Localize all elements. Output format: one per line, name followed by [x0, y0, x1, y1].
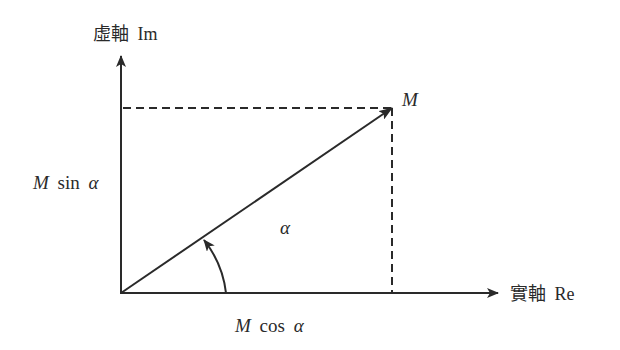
- real-axis-label-cjk: 實軸: [510, 283, 546, 304]
- real-axis-label-latin: Re: [555, 284, 575, 304]
- imaginary-axis-label-cjk: 虛軸: [93, 23, 129, 44]
- angle-alpha-label: α: [280, 217, 291, 238]
- m-cos-alpha-label: M cos α: [234, 315, 305, 336]
- imaginary-axis-label: 虛軸 Im: [93, 23, 158, 44]
- m-sin-angle: α: [89, 172, 100, 193]
- m-sin-func: sin: [58, 172, 81, 193]
- m-cos-angle: α: [294, 315, 305, 336]
- m-sin-symbol: M: [32, 172, 50, 193]
- angle-arc-arrow: [204, 240, 226, 293]
- m-cos-symbol: M: [234, 315, 252, 336]
- vector-m-label: M: [401, 89, 419, 110]
- phasor-diagram: 虛軸 Im 實軸 Re M α M sin α M cos α: [0, 0, 620, 350]
- m-sin-alpha-label: M sin α: [32, 172, 100, 193]
- real-axis-label: 實軸 Re: [510, 283, 575, 304]
- imaginary-axis-label-latin: Im: [138, 24, 158, 44]
- m-cos-func: cos: [260, 315, 285, 336]
- vector-m: [121, 108, 392, 293]
